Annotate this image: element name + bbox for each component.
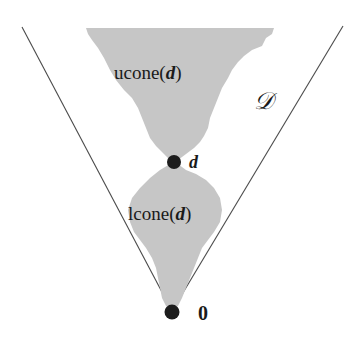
ucone-region xyxy=(86,28,274,160)
point-d-label: d xyxy=(189,152,199,172)
lcone-label: lcone(d) xyxy=(128,203,191,225)
cone-d-label: 𝒟 xyxy=(254,88,278,114)
cone-diagram: ucone(d) lcone(d) 𝒟 d 0 xyxy=(0,0,359,341)
point-origin xyxy=(165,305,180,320)
ucone-label: ucone(d) xyxy=(114,62,182,84)
lcone-region xyxy=(128,164,222,306)
origin-label: 0 xyxy=(198,302,208,324)
point-d xyxy=(167,155,181,169)
